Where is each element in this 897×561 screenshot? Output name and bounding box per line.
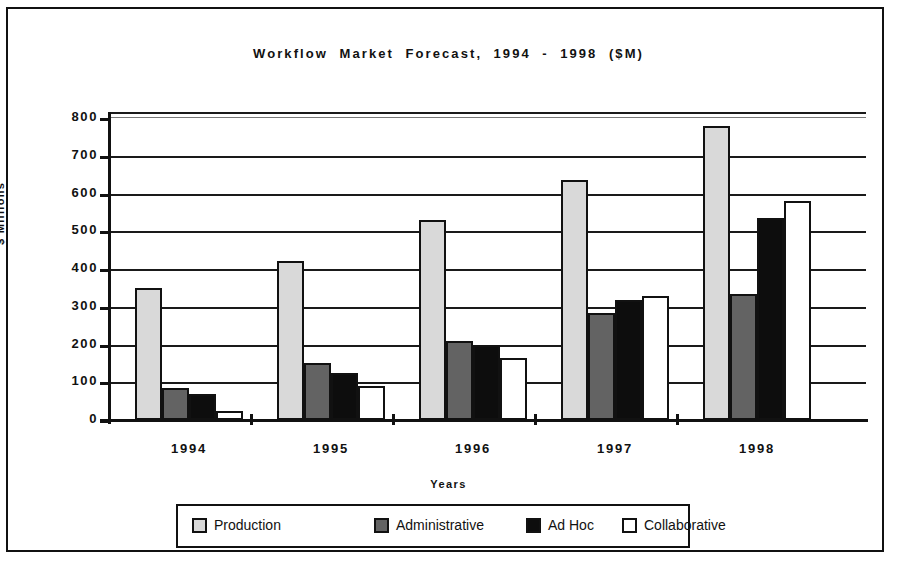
bar [588,313,615,420]
y-axis-line [108,112,111,424]
chart-page: Workflow Market Forecast, 1994 - 1998 ($… [0,0,897,561]
legend-swatch-icon [622,518,637,533]
x-axis-tick-label: 1995 [286,441,376,456]
y-axis-tick-labels: 8007006005004003002001000 [30,0,98,561]
y-axis-tick-label: 0 [38,411,98,426]
x-axis-tick-label: 1996 [428,441,518,456]
bar [189,394,216,420]
x-axis-tick-label: 1997 [570,441,660,456]
bar [642,296,669,420]
x-axis-tick [392,414,395,425]
legend-label: Production [214,517,281,533]
bar [784,201,811,420]
y-axis-tick [100,307,110,310]
y-axis-tick-label: 200 [38,336,98,351]
bar [304,363,331,420]
bar [135,288,162,420]
legend-swatch-icon [374,518,389,533]
y-axis-tick [100,382,110,385]
bar [162,388,189,420]
bar [615,300,642,420]
y-axis-tick [100,118,110,121]
x-axis-tick-label: 1998 [712,441,802,456]
bar [473,345,500,421]
legend-label: Administrative [396,517,484,533]
chart-title: Workflow Market Forecast, 1994 - 1998 ($… [0,46,897,61]
legend-item[interactable]: Administrative [374,517,484,533]
y-axis-tick [100,156,110,159]
bar [730,294,757,420]
legend-label: Ad Hoc [548,517,594,533]
x-axis-title: Years [0,478,897,490]
bar [419,220,446,420]
x-axis-tick-label: 1994 [144,441,234,456]
y-axis-tick [100,231,110,234]
bar [358,386,385,420]
chart-legend: ProductionAdministrativeAd HocCollaborat… [176,504,690,548]
y-axis-tick [100,345,110,348]
bar [757,218,784,420]
x-axis-tick [676,414,679,425]
y-axis-tick-label: 600 [38,185,98,200]
bar [500,358,527,420]
y-axis-tick [100,194,110,197]
bar [561,180,588,420]
legend-item[interactable]: Ad Hoc [526,517,594,533]
y-axis-tick-label: 400 [38,260,98,275]
legend-item[interactable]: Collaborative [622,517,726,533]
y-axis-tick-label: 700 [38,147,98,162]
legend-item[interactable]: Production [192,517,281,533]
legend-swatch-icon [192,518,207,533]
y-axis-tick [100,420,110,423]
x-axis-tick [250,414,253,425]
x-axis-line [100,419,868,422]
y-axis-tick-label: 100 [38,373,98,388]
y-axis-tick-label: 500 [38,222,98,237]
y-axis-tick [100,269,110,272]
bar [277,261,304,420]
y-axis-tick-label: 300 [38,298,98,313]
y-axis-title: $ Millions [0,182,6,245]
bar [703,126,730,420]
plot-area [110,112,866,426]
y-axis-tick-label: 800 [38,109,98,124]
legend-swatch-icon [526,518,541,533]
x-axis-tick [534,414,537,425]
legend-label: Collaborative [644,517,726,533]
bar [331,373,358,420]
bar [446,341,473,420]
